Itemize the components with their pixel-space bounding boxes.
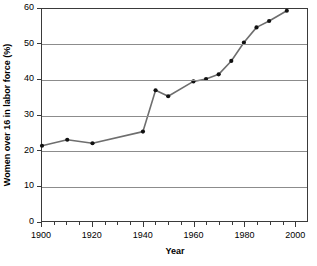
x-tick-mark-major	[143, 222, 144, 227]
x-tick-mark-minor	[54, 222, 55, 225]
x-tick-mark-major	[295, 222, 296, 227]
x-tick-mark-minor	[257, 222, 258, 225]
x-tick-mark-minor	[168, 222, 169, 225]
x-tick-label: 1940	[123, 230, 163, 240]
x-tick-mark-major	[194, 222, 195, 227]
x-axis-title: Year	[41, 246, 309, 256]
x-tick-label: 2000	[275, 230, 315, 240]
x-tick-mark-minor	[79, 222, 80, 225]
x-tick-mark-major	[92, 222, 93, 227]
x-tick-mark-minor	[130, 222, 131, 225]
x-tick-mark-minor	[232, 222, 233, 225]
x-tick-mark-major	[244, 222, 245, 227]
x-tick-label: 1980	[224, 230, 264, 240]
line-chart: Women over 16 in labor force (%) 0102030…	[0, 0, 317, 266]
x-axis: 190019201940196019802000	[0, 0, 317, 266]
x-tick-mark-minor	[283, 222, 284, 225]
x-tick-mark-major	[41, 222, 42, 227]
x-tick-mark-minor	[206, 222, 207, 225]
x-tick-mark-minor	[105, 222, 106, 225]
x-tick-label: 1960	[174, 230, 214, 240]
x-tick-label: 1900	[21, 230, 61, 240]
x-tick-mark-minor	[270, 222, 271, 225]
x-tick-mark-minor	[181, 222, 182, 225]
x-tick-mark-minor	[219, 222, 220, 225]
x-tick-mark-minor	[66, 222, 67, 225]
x-tick-mark-minor	[155, 222, 156, 225]
x-tick-mark-minor	[117, 222, 118, 225]
x-tick-label: 1920	[72, 230, 112, 240]
